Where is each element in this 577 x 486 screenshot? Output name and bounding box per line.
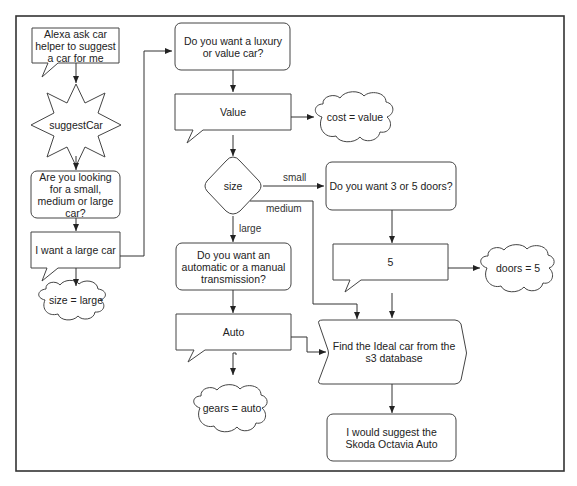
ask-size-text: Are you looking for a small, medium or l… bbox=[33, 171, 118, 218]
doors-slot-text: doors = 5 bbox=[484, 261, 552, 275]
find-car-text: Find the Ideal car from the s3 database bbox=[332, 320, 456, 384]
edge-answer-to-gears-cloud bbox=[233, 353, 236, 375]
ask-cost-text: Do you want a luxury or value car? bbox=[178, 23, 288, 70]
size-slot-text: size = large bbox=[40, 293, 112, 307]
ask-gears-text: Do you want an automatic or a manual tra… bbox=[177, 243, 290, 290]
edge-label-medium: medium bbox=[266, 203, 302, 214]
answer-size-text: I want a large car bbox=[31, 232, 120, 268]
gears-slot-text: gears = auto bbox=[196, 401, 268, 415]
edge-label-small: small bbox=[283, 172, 306, 183]
size-decision-text: size bbox=[210, 179, 256, 193]
edge-answer-to-ask-cost bbox=[120, 51, 172, 256]
answer-doors-text: 5 bbox=[333, 244, 448, 280]
answer-gears-text: Auto bbox=[176, 314, 291, 350]
edge-answer-gears-to-find bbox=[291, 337, 326, 352]
edge-label-large: large bbox=[239, 223, 261, 234]
cost-slot-text: cost = value bbox=[318, 110, 392, 124]
suggest-car-text: suggestCar bbox=[46, 118, 106, 132]
alexa-request-text: Alexa ask car helper to suggest a car fo… bbox=[32, 28, 119, 63]
ask-doors-text: Do you want 3 or 5 doors? bbox=[326, 162, 456, 210]
answer-cost-text: Value bbox=[175, 94, 291, 130]
suggestion-text: I would suggest the Skoda Octavia Auto bbox=[332, 414, 451, 461]
